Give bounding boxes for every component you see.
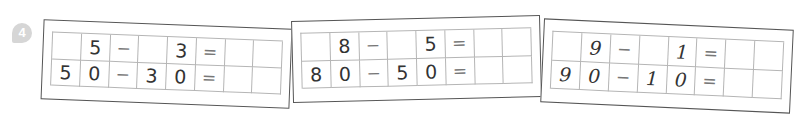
grid-cell: 0 <box>331 60 360 88</box>
grid-cell <box>301 33 330 61</box>
answer-cell[interactable] <box>223 66 253 94</box>
answer-cell[interactable] <box>724 68 754 98</box>
grid-cell: 0 <box>580 62 610 92</box>
grid-cell: 5 <box>51 59 81 87</box>
minus-sign: − <box>609 63 639 93</box>
equals-sign: = <box>445 30 474 58</box>
answer-cell[interactable] <box>725 40 755 70</box>
grid-cell: 3 <box>137 62 167 90</box>
grid-cell <box>639 36 669 66</box>
answer-cell[interactable] <box>253 40 283 68</box>
equals-sign: = <box>196 38 226 66</box>
answer-cell[interactable] <box>753 69 783 99</box>
subtraction-card-1: 5 − 3 = 5 0 − 3 0 = <box>41 19 293 108</box>
grid-cell: 0 <box>417 58 446 86</box>
answer-cell[interactable] <box>503 56 532 84</box>
grid-cell: 8 <box>302 61 331 89</box>
grid-cell <box>552 32 582 62</box>
equals-sign: = <box>195 65 225 93</box>
grid-cell <box>52 33 82 61</box>
grid-cell: 1 <box>668 37 698 67</box>
grid-cell: 3 <box>167 37 197 65</box>
subtraction-card-3: 9 − 1 = 9 0 − 1 0 = <box>540 18 794 113</box>
grid-cell <box>388 31 417 59</box>
grid-cell: 0 <box>166 64 196 92</box>
minus-sign: − <box>610 34 640 64</box>
grid-cell: 0 <box>80 60 110 88</box>
grid-cell: 0 <box>666 66 696 96</box>
answer-cell[interactable] <box>224 39 254 67</box>
answer-grid-3: 9 − 1 = 9 0 − 1 0 = <box>550 31 784 99</box>
grid-cell: 5 <box>81 34 111 62</box>
equals-sign: = <box>695 67 725 97</box>
answer-cell[interactable] <box>503 28 532 56</box>
answer-cell[interactable] <box>474 29 503 57</box>
answer-grid-1: 5 − 3 = 5 0 − 3 0 = <box>50 32 283 95</box>
subtraction-card-2: 8 − 5 = 8 0 − 5 0 = <box>291 15 542 103</box>
answer-cell[interactable] <box>474 56 503 84</box>
minus-sign: − <box>360 59 389 87</box>
equals-sign: = <box>446 57 475 85</box>
equals-sign: = <box>696 38 726 68</box>
grid-cell <box>138 36 168 64</box>
grid-cell: 1 <box>637 64 667 94</box>
grid-cell: 8 <box>330 32 359 60</box>
minus-sign: − <box>359 32 388 60</box>
grid-cell: 5 <box>388 58 417 86</box>
grid-cell: 9 <box>581 33 611 63</box>
grid-cell: 5 <box>416 30 445 58</box>
grid-cell: 9 <box>551 60 581 90</box>
answer-grid-2: 8 − 5 = 8 0 − 5 0 = <box>300 27 532 89</box>
answer-cell[interactable] <box>754 41 784 71</box>
exercise-number-badge: 4 <box>12 23 32 43</box>
answer-cell[interactable] <box>252 67 282 95</box>
minus-sign: − <box>109 61 139 89</box>
minus-sign: − <box>110 35 140 63</box>
